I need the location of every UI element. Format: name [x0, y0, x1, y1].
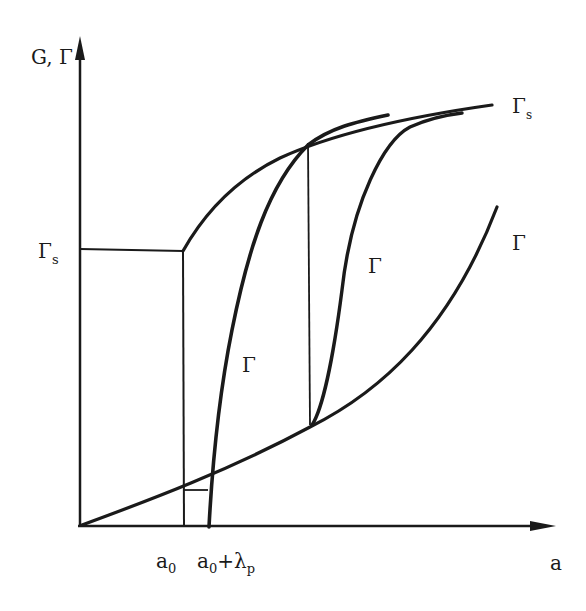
axes	[75, 36, 556, 531]
x-tick-a0-plus-lambda-p: a0+λp	[197, 549, 255, 576]
r-curve-middle	[312, 113, 462, 425]
labels: G, Γ Γs a0 a0+λp a Γs Γ Γ Γ	[31, 45, 562, 576]
y-axis-arrow-icon	[75, 36, 85, 60]
x-tick-a0: a0	[156, 549, 176, 576]
g-driving-force-curve	[82, 207, 497, 525]
y-axis-label: G, Γ	[31, 45, 73, 69]
label-gamma-right: Γ	[512, 231, 526, 255]
x-axis-label: a	[550, 551, 562, 575]
y-tick-gamma-s: Γs	[38, 239, 59, 267]
x-axis-arrow-icon	[530, 521, 556, 531]
r-curve-diagram: G, Γ Γs a0 a0+λp a Γs Γ Γ Γ	[0, 0, 586, 611]
tangency-vertical-line	[308, 143, 310, 425]
label-gamma-left: Γ	[242, 353, 256, 377]
label-gamma-s-envelope: Γs	[512, 94, 532, 122]
reference-lines	[80, 143, 310, 527]
gamma-s-level-line	[80, 249, 183, 251]
label-gamma-middle: Γ	[368, 254, 382, 278]
